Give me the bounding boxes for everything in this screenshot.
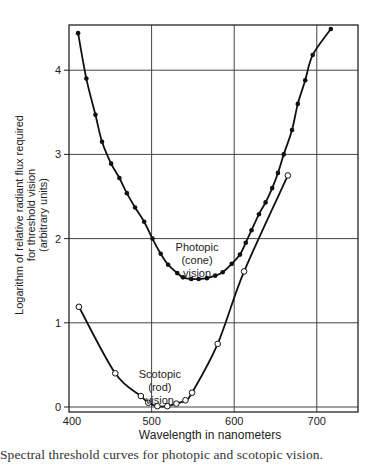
- x-axis-label: Wavelength in nanometers: [139, 428, 281, 442]
- data-point-open: [112, 371, 118, 377]
- data-point-filled: [175, 271, 180, 276]
- data-point-filled: [290, 128, 295, 133]
- data-point-filled: [243, 241, 248, 246]
- data-point-open: [215, 341, 221, 347]
- y-tick-label: 0: [55, 401, 61, 413]
- x-tick-label: 700: [308, 415, 326, 427]
- data-point-open: [138, 393, 144, 399]
- spectral-threshold-chart: 01234 400500600700 Photopic(cone)visionS…: [0, 0, 380, 445]
- data-point-filled: [166, 262, 171, 267]
- scotopic-label: vision: [146, 394, 174, 406]
- y-tick-label: 3: [55, 148, 61, 160]
- data-point-open: [76, 304, 82, 310]
- y-axis-label-line: Logarithm of relative radiant flux requi…: [13, 115, 25, 315]
- data-point-filled: [150, 236, 155, 241]
- scotopic-label: (rod): [148, 381, 171, 393]
- y-tick-label: 2: [55, 233, 61, 245]
- data-point-filled: [281, 152, 286, 157]
- data-point-filled: [257, 212, 262, 217]
- data-point-open: [285, 173, 291, 179]
- data-point-filled: [158, 251, 163, 256]
- figure-caption: Spectral threshold curves for photopic a…: [0, 447, 380, 463]
- scotopic-curve: [79, 175, 288, 406]
- data-point-filled: [125, 191, 130, 196]
- data-point-filled: [76, 31, 81, 36]
- data-point-filled: [142, 219, 147, 224]
- curve-annotations: Photopic(cone)visionScotopic(rod)vision: [139, 241, 219, 405]
- y-axis-label-line: for threshold vision: [25, 169, 37, 261]
- x-axis-ticks: 400500600700: [63, 415, 326, 427]
- y-axis-label-line: (arbitrary units): [37, 178, 49, 252]
- data-point-filled: [93, 113, 98, 118]
- data-series: [76, 27, 333, 409]
- data-point-filled: [249, 228, 254, 233]
- data-point-filled: [329, 27, 334, 32]
- data-point-filled: [213, 273, 218, 278]
- y-axis-label: Logarithm of relative radiant flux requi…: [13, 115, 49, 315]
- y-axis-ticks: 01234: [55, 64, 69, 413]
- x-tick-label: 500: [142, 415, 160, 427]
- photopic-label: Photopic: [176, 241, 219, 253]
- scotopic-label: Scotopic: [139, 368, 182, 380]
- y-tick-label: 1: [55, 317, 61, 329]
- data-point-filled: [310, 53, 315, 58]
- photopic-label: vision: [183, 267, 211, 279]
- data-point-open: [183, 397, 189, 403]
- data-point-filled: [276, 171, 281, 176]
- data-point-filled: [229, 262, 234, 267]
- data-point-open: [189, 390, 195, 396]
- data-point-filled: [263, 200, 268, 205]
- data-point-filled: [117, 176, 122, 181]
- data-point-filled: [109, 161, 114, 166]
- data-point-filled: [84, 76, 89, 81]
- data-point-filled: [220, 270, 225, 275]
- data-point-open: [241, 269, 247, 275]
- photopic-label: (cone): [181, 254, 212, 266]
- data-point-filled: [133, 205, 138, 210]
- data-point-filled: [238, 252, 243, 257]
- x-tick-label: 400: [63, 415, 81, 427]
- data-point-filled: [100, 139, 105, 144]
- data-point-open: [174, 401, 180, 407]
- data-point-filled: [303, 78, 308, 83]
- data-point-filled: [296, 102, 301, 107]
- x-tick-label: 600: [225, 415, 243, 427]
- y-tick-label: 4: [55, 64, 61, 76]
- data-point-filled: [270, 186, 275, 191]
